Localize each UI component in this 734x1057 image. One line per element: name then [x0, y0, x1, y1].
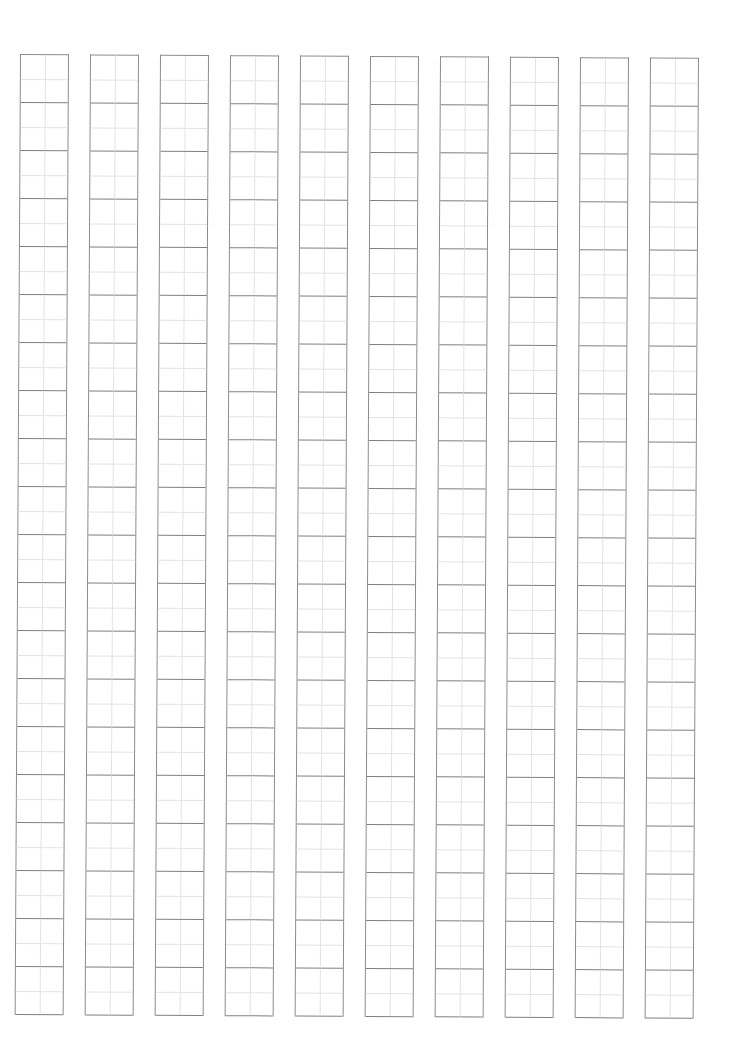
grid-cell [20, 103, 67, 151]
grid-cell [650, 155, 697, 203]
grid-cell [438, 537, 485, 585]
grid-cell [298, 489, 345, 537]
grid-column-3 [155, 55, 209, 1016]
grid-cell [366, 969, 413, 1017]
grid-cell [439, 297, 486, 345]
grid-cell [366, 921, 413, 969]
grid-cell [578, 538, 625, 586]
grid-cell [646, 923, 693, 971]
grid-cell [156, 968, 203, 1016]
grid-cell [438, 585, 485, 633]
grid-cell [296, 825, 343, 873]
grid-cell [440, 249, 487, 297]
grid-cell [509, 394, 556, 442]
grid-cell [578, 634, 625, 682]
grid-cell [16, 871, 63, 919]
grid-cell [18, 535, 65, 583]
grid-column-8 [505, 57, 559, 1018]
grid-cell [90, 103, 137, 151]
grid-cell [296, 969, 343, 1017]
grid-cell [160, 248, 207, 296]
grid-cell [577, 730, 624, 778]
grid-cell [89, 343, 136, 391]
grid-cell [227, 776, 274, 824]
grid-cell [507, 778, 554, 826]
grid-cell [508, 634, 555, 682]
grid-cell [17, 727, 64, 775]
grid-cell [578, 490, 625, 538]
grid-column-4 [225, 55, 279, 1016]
grid-cell [88, 583, 135, 631]
grid-cell [89, 439, 136, 487]
grid-cell [158, 584, 205, 632]
grid-cell [370, 153, 417, 201]
grid-cell [436, 873, 483, 921]
grid-cell [19, 439, 66, 487]
grid-cell [226, 824, 273, 872]
grid-cell [18, 631, 65, 679]
grid-cell [226, 872, 273, 920]
grid-cell [438, 489, 485, 537]
grid-cell [19, 295, 66, 343]
grid-cell [156, 872, 203, 920]
grid-cell [159, 296, 206, 344]
grid-cell [506, 874, 553, 922]
grid-cell [368, 585, 415, 633]
grid-cell [228, 632, 275, 680]
grid-cell [436, 921, 483, 969]
grid-cell [436, 969, 483, 1017]
grid-cell [229, 296, 276, 344]
grid-cell [86, 871, 133, 919]
grid-cell [20, 151, 67, 199]
grid-cell [88, 535, 135, 583]
grid-cell [90, 199, 137, 247]
grid-cell [159, 392, 206, 440]
grid-cell [508, 490, 555, 538]
grid-cell [160, 152, 207, 200]
grid-cell [580, 250, 627, 298]
grid-cell [158, 488, 205, 536]
grid-cell [580, 154, 627, 202]
grid-cell [230, 152, 277, 200]
grid-cell [647, 683, 694, 731]
grid-cell [88, 631, 135, 679]
grid-cell [228, 584, 275, 632]
grid-cell [19, 343, 66, 391]
grid-cell [647, 635, 694, 683]
grid-cell [18, 487, 65, 535]
grid-cell [510, 202, 557, 250]
grid-cell [436, 825, 483, 873]
grid-cell [366, 825, 413, 873]
grid-cell [157, 776, 204, 824]
grid-cell [370, 105, 417, 153]
grid-cell [648, 491, 695, 539]
grid-cell [580, 106, 627, 154]
grid-cell [580, 202, 627, 250]
grid-cell [160, 200, 207, 248]
grid-cell [157, 680, 204, 728]
grid-cell [227, 680, 274, 728]
grid-cell [437, 777, 484, 825]
grid-cell [299, 297, 346, 345]
grid-cell [650, 107, 697, 155]
grid-cell [438, 633, 485, 681]
grid-cell [646, 827, 693, 875]
grid-cell [231, 56, 278, 104]
grid-cell [86, 919, 133, 967]
grid-cell [157, 728, 204, 776]
grid-cell [18, 583, 65, 631]
grid-cell [16, 823, 63, 871]
grid-cell [301, 57, 348, 105]
grid-cell [440, 153, 487, 201]
practice-sheet [0, 0, 734, 1057]
grid-cell [506, 826, 553, 874]
grid-cell [647, 779, 694, 827]
grid-cell [510, 106, 557, 154]
grid-cell [507, 730, 554, 778]
grid-cell [576, 826, 623, 874]
grid-cell [651, 59, 698, 107]
grid-cell [19, 391, 66, 439]
grid-cell [509, 442, 556, 490]
grid-cell [298, 585, 345, 633]
grid-cell [90, 247, 137, 295]
